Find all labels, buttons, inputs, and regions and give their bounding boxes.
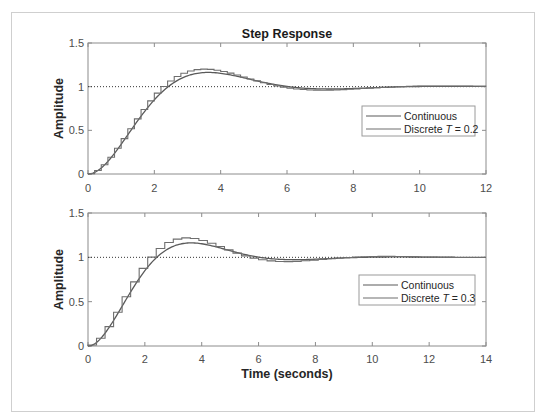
x-ticks: 0 2 4 6 8 10 12 14 <box>85 353 492 365</box>
y-tick-label: 1.5 <box>69 37 84 49</box>
plot-top: 0 0.5 1 1.5 0 2 4 6 8 10 12 Amplitude Co… <box>52 37 492 194</box>
x-tick-label: 0 <box>85 353 91 365</box>
x-ticks: 0 2 4 6 8 10 12 <box>85 182 492 194</box>
x-tick-label: 2 <box>142 353 148 365</box>
y-ticks: 0 0.5 1 1.5 <box>69 37 84 180</box>
x-tick-label: 0 <box>85 182 91 194</box>
x-tick-label: 12 <box>480 182 492 194</box>
x-tick-label: 8 <box>350 182 356 194</box>
y-tick-label: 0 <box>78 340 84 352</box>
y-axis-label: Amplitude <box>52 78 66 139</box>
legend-label-discrete: Discrete T = 0.3 <box>401 292 476 304</box>
chart-title: Step Response <box>242 27 332 41</box>
legend: Continuous Discrete T = 0.2 <box>362 106 479 136</box>
x-tick-label: 10 <box>414 182 426 194</box>
y-tick-label: 0.5 <box>69 124 84 136</box>
x-tick-label: 4 <box>218 182 224 194</box>
legend-label-discrete: Discrete T = 0.2 <box>404 123 479 135</box>
x-tick-label: 12 <box>423 353 435 365</box>
y-tick-label: 1.5 <box>69 207 84 219</box>
x-tick-label: 10 <box>366 353 378 365</box>
x-tick-label: 6 <box>284 182 290 194</box>
plot-bottom: 0 0.5 1 1.5 0 2 4 6 8 10 12 14 Amplitude… <box>52 207 492 381</box>
x-axis-label: Time (seconds) <box>241 367 332 381</box>
x-tick-label: 2 <box>151 182 157 194</box>
y-tick-label: 0.5 <box>69 296 84 308</box>
x-tick-label: 8 <box>312 353 318 365</box>
legend-label-continuous: Continuous <box>401 279 454 291</box>
x-tick-label: 4 <box>199 353 205 365</box>
y-ticks: 0 0.5 1 1.5 <box>69 207 84 352</box>
x-tick-label: 14 <box>480 353 492 365</box>
legend-label-continuous: Continuous <box>404 110 457 122</box>
y-tick-label: 1 <box>78 251 84 263</box>
y-tick-label: 0 <box>78 168 84 180</box>
y-axis-label: Amplitude <box>52 249 66 310</box>
y-tick-label: 1 <box>78 81 84 93</box>
legend: Continuous Discrete T = 0.3 <box>359 275 476 305</box>
x-tick-label: 6 <box>256 353 262 365</box>
